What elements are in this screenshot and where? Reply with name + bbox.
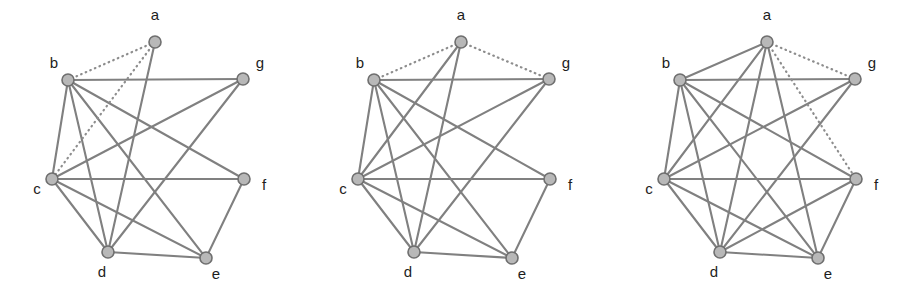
edge-solid-b-c — [664, 80, 680, 179]
edge-dotted-a-g — [767, 42, 855, 79]
node-label-g: g — [256, 54, 264, 71]
edge-solid-b-g — [68, 79, 243, 80]
graph-node-a[interactable] — [149, 36, 161, 48]
edge-solid-b-f — [374, 80, 550, 179]
node-label-d: d — [98, 263, 106, 280]
graph-panel-2: abcdefg — [306, 0, 612, 290]
edge-solid-b-g — [374, 79, 549, 80]
graph-node-g[interactable] — [849, 73, 861, 85]
graph-node-b[interactable] — [368, 74, 380, 86]
edge-layer — [358, 42, 550, 258]
graph-canvas: abcdefg — [0, 0, 306, 290]
node-label-e: e — [518, 265, 526, 282]
graph-node-e[interactable] — [200, 252, 212, 264]
graph-node-c[interactable] — [352, 173, 364, 185]
graph-panel-3: abcdefg — [612, 0, 918, 290]
edge-solid-c-e — [358, 179, 512, 258]
edge-solid-b-c — [358, 80, 374, 179]
node-label-f: f — [568, 176, 573, 193]
graph-node-d[interactable] — [102, 246, 114, 258]
node-label-d: d — [404, 263, 412, 280]
edge-solid-d-e — [414, 252, 512, 258]
edge-dotted-a-g — [461, 42, 549, 79]
node-label-b: b — [662, 54, 670, 71]
node-label-g: g — [868, 54, 876, 71]
edge-solid-b-c — [52, 80, 68, 179]
graph-node-a[interactable] — [761, 36, 773, 48]
graph-node-c[interactable] — [46, 173, 58, 185]
edge-solid-b-f — [68, 80, 244, 179]
edge-solid-b-f — [680, 80, 856, 179]
graph-node-b[interactable] — [674, 74, 686, 86]
node-label-c: c — [33, 180, 41, 197]
graph-node-g[interactable] — [543, 73, 555, 85]
edge-dotted-a-f — [767, 42, 856, 179]
graph-canvas: abcdefg — [612, 0, 918, 290]
node-label-e: e — [212, 265, 220, 282]
node-label-b: b — [50, 54, 58, 71]
edge-solid-d-f — [720, 179, 856, 252]
graph-node-b[interactable] — [62, 74, 74, 86]
edge-layer — [52, 42, 244, 258]
node-label-e: e — [824, 265, 832, 282]
edge-solid-d-e — [108, 252, 206, 258]
edge-solid-c-g — [52, 79, 243, 179]
graph-node-f[interactable] — [238, 173, 250, 185]
node-label-f: f — [874, 176, 879, 193]
graph-canvas: abcdefg — [306, 0, 612, 290]
edge-solid-e-f — [512, 179, 550, 258]
node-label-f: f — [262, 176, 267, 193]
edge-solid-b-g — [680, 79, 855, 80]
graph-node-f[interactable] — [544, 173, 556, 185]
node-label-a: a — [763, 6, 772, 23]
node-label-d: d — [710, 263, 718, 280]
edge-layer — [664, 42, 856, 258]
node-label-b: b — [356, 54, 364, 71]
graph-node-g[interactable] — [237, 73, 249, 85]
graph-node-d[interactable] — [714, 246, 726, 258]
node-label-c: c — [339, 180, 347, 197]
node-label-c: c — [645, 180, 653, 197]
edge-solid-d-e — [720, 252, 818, 258]
graph-panel-1: abcdefg — [0, 0, 306, 290]
node-layer: abcdefg — [33, 6, 267, 282]
graph-node-e[interactable] — [812, 252, 824, 264]
node-label-g: g — [562, 54, 570, 71]
edge-solid-e-f — [818, 179, 856, 258]
edge-dotted-a-b — [68, 42, 155, 80]
graph-node-e[interactable] — [506, 252, 518, 264]
node-label-a: a — [457, 6, 466, 23]
edge-solid-c-g — [664, 79, 855, 179]
graph-node-c[interactable] — [658, 173, 670, 185]
graph-node-f[interactable] — [850, 173, 862, 185]
node-label-a: a — [151, 6, 160, 23]
edge-solid-c-e — [52, 179, 206, 258]
graph-figure: abcdefgabcdefgabcdefg — [0, 0, 918, 290]
edge-solid-c-e — [664, 179, 818, 258]
edge-solid-e-f — [206, 179, 244, 258]
graph-node-a[interactable] — [455, 36, 467, 48]
edge-solid-c-g — [358, 79, 549, 179]
graph-node-d[interactable] — [408, 246, 420, 258]
